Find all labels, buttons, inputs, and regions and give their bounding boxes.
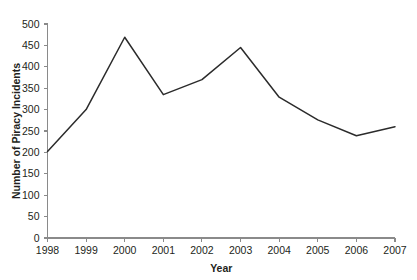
line-chart: 050100150200250300350400450500 199819992… xyxy=(0,0,417,280)
x-tick-label-1998: 1998 xyxy=(36,244,60,256)
x-tick-label-2006: 2006 xyxy=(345,244,369,256)
y-tick-label-250: 250 xyxy=(22,125,40,137)
y-tick-label-400: 400 xyxy=(22,60,40,72)
x-tick-label-2003: 2003 xyxy=(229,244,253,256)
y-axis-tick-labels: 050100150200250300350400450500 xyxy=(22,18,40,244)
y-tick-label-50: 50 xyxy=(28,210,40,222)
y-tick-label-450: 450 xyxy=(22,39,40,51)
y-tick-label-200: 200 xyxy=(22,146,40,158)
x-tick-label-2005: 2005 xyxy=(306,244,330,256)
y-tick-label-300: 300 xyxy=(22,103,40,115)
x-tick-label-2001: 2001 xyxy=(152,244,176,256)
x-axis-title: Year xyxy=(210,262,232,274)
x-tick-label-2004: 2004 xyxy=(267,244,291,256)
series-line-piracy-incidents xyxy=(48,37,396,151)
y-axis-title: Number of Piracy Incidents xyxy=(10,63,22,199)
x-tick-label-2000: 2000 xyxy=(113,244,137,256)
y-tick-label-150: 150 xyxy=(22,167,40,179)
y-tick-label-500: 500 xyxy=(22,18,40,30)
x-axis-group: 1998199920002001200220032004200520062007 xyxy=(36,238,407,256)
y-tick-label-100: 100 xyxy=(22,189,40,201)
x-tick-label-2007: 2007 xyxy=(383,244,407,256)
x-axis-ticks xyxy=(48,238,396,242)
x-tick-label-2002: 2002 xyxy=(190,244,214,256)
y-tick-label-350: 350 xyxy=(22,82,40,94)
x-tick-label-1999: 1999 xyxy=(74,244,98,256)
chart-canvas: 050100150200250300350400450500 199819992… xyxy=(0,0,417,280)
data-series-group xyxy=(48,37,396,151)
x-axis-tick-labels: 1998199920002001200220032004200520062007 xyxy=(36,244,407,256)
y-tick-label-0: 0 xyxy=(34,232,40,244)
y-axis-group: 050100150200250300350400450500 xyxy=(22,18,48,244)
